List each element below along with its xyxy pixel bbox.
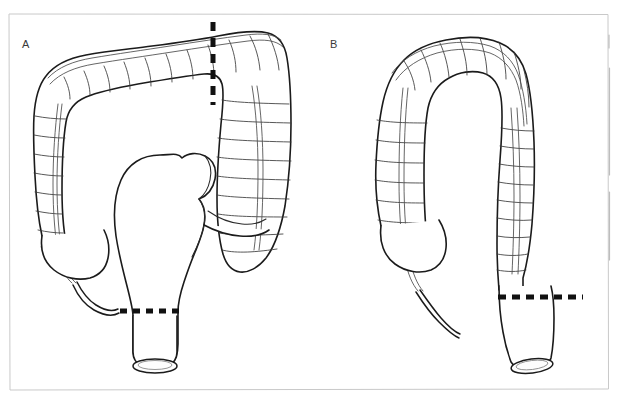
panel-a-label: A [22, 38, 30, 50]
panel-a-rectum [133, 316, 177, 373]
right-edge-ticks [609, 35, 610, 260]
colon-anatomy-figure: A [0, 0, 620, 403]
panel-b-label: B [330, 38, 338, 50]
figure-root: A [0, 0, 620, 403]
